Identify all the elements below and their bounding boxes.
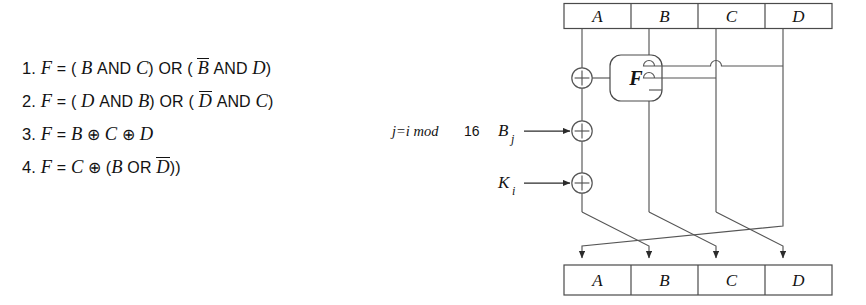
wire-c-to-d — [716, 212, 783, 258]
annotation-j-mod: j=i mod 16 — [390, 123, 480, 139]
formula-rparen: ) — [149, 93, 154, 110]
formula-lhs: F — [41, 91, 52, 111]
formula-and-2: AND — [214, 60, 248, 77]
formula-xor-2: ⊕ — [122, 126, 135, 143]
formula-lhs: F — [41, 157, 52, 177]
formula-lparen: ( — [71, 60, 76, 77]
bottom-register: A B C D — [564, 265, 832, 295]
formula-lparen-2: ( — [187, 60, 192, 77]
bottom-register-cell-c: C — [726, 271, 738, 290]
bottom-register-cell-d: D — [791, 271, 805, 290]
input-bj-subscript: j — [509, 132, 515, 146]
formula-operand-c: C — [255, 91, 267, 111]
crossover-wiring — [582, 212, 783, 258]
formula-rparen: ) — [148, 60, 153, 77]
formula-item-1: 1. F = ( B AND C) OR ( B AND D) — [22, 52, 372, 85]
formula-operand-d-not: D — [156, 157, 169, 177]
formula-operand-d: D — [81, 91, 94, 111]
xor-gate-ki — [572, 173, 592, 193]
formula-number: 4. — [22, 158, 36, 176]
formula-lhs: F — [41, 124, 52, 144]
bottom-register-cell-a: A — [591, 271, 603, 290]
formula-rparen-2: ) — [268, 93, 273, 110]
formula-list: 1. F = ( B AND C) OR ( B AND D) 2. F = (… — [22, 52, 372, 184]
formula-lparen-2: ( — [188, 93, 193, 110]
top-register: A B C D — [564, 4, 832, 29]
formula-operand-d: D — [252, 58, 265, 78]
formula-operand-b: B — [138, 91, 149, 111]
formula-operand-d-not: D — [199, 91, 212, 111]
formula-operand-c: C — [105, 124, 117, 144]
formula-number: 3. — [22, 125, 36, 143]
formula-equals: = — [57, 126, 66, 143]
function-box-label: F — [628, 67, 643, 89]
formula-or: OR — [127, 159, 151, 176]
wire-d-to-a — [582, 212, 783, 258]
page-root: 1. F = ( B AND C) OR ( B AND D) 2. F = (… — [0, 0, 866, 305]
formula-equals: = — [57, 159, 66, 176]
formula-xor: ⊕ — [88, 159, 101, 176]
formula-operand-b: B — [71, 124, 82, 144]
input-ki-label: K — [497, 173, 511, 192]
wire-a-to-b — [582, 212, 649, 258]
formula-or: OR — [159, 93, 183, 110]
formula-and: AND — [97, 60, 131, 77]
formula-lparen: ( — [71, 93, 76, 110]
xor-gate-bj — [572, 121, 592, 141]
top-register-cell-d: D — [791, 7, 805, 26]
input-bj-group: B j — [498, 121, 570, 146]
annotation-j-mod-text: j=i mod — [390, 123, 439, 139]
xor-gate-f — [572, 68, 592, 88]
round-function-diagram: A B C D — [378, 0, 866, 305]
formula-operand-b: B — [111, 157, 122, 177]
formula-rparen-2: ) — [266, 60, 271, 77]
formula-operand-c: C — [71, 157, 83, 177]
input-bj-label: B — [498, 121, 509, 140]
column-lines — [582, 29, 783, 213]
top-register-cell-c: C — [726, 7, 738, 26]
formula-and-2: AND — [217, 93, 251, 110]
formula-item-3: 3. F = B ⊕ C ⊕ D — [22, 118, 372, 151]
formula-item-4: 4. F = C ⊕ (B OR D)) — [22, 151, 372, 184]
input-ki-subscript: i — [512, 184, 515, 198]
top-register-cell-b: B — [659, 7, 670, 26]
wire-b-to-c — [649, 212, 716, 258]
formula-lhs: F — [41, 58, 52, 78]
input-ki-group: K i — [497, 173, 570, 198]
formula-rparen-double: )) — [170, 159, 181, 176]
formula-item-2: 2. F = ( D AND B) OR ( D AND C) — [22, 85, 372, 118]
formula-operand-b-not: B — [197, 58, 208, 78]
formula-operand-c: C — [136, 58, 148, 78]
formula-or: OR — [158, 60, 182, 77]
formula-operand-b: B — [81, 58, 92, 78]
formula-and: AND — [99, 93, 133, 110]
top-register-cell-a: A — [591, 7, 603, 26]
formula-equals: = — [57, 93, 66, 110]
function-input-lines — [644, 61, 784, 91]
formula-operand-d: D — [140, 124, 153, 144]
bottom-register-cell-b: B — [659, 271, 670, 290]
f-input-from-d — [644, 61, 784, 67]
formula-number: 2. — [22, 92, 36, 110]
formula-equals: = — [57, 60, 66, 77]
formula-xor: ⊕ — [87, 126, 100, 143]
formula-number: 1. — [22, 59, 36, 77]
annotation-j-mod-value: 16 — [464, 123, 480, 139]
